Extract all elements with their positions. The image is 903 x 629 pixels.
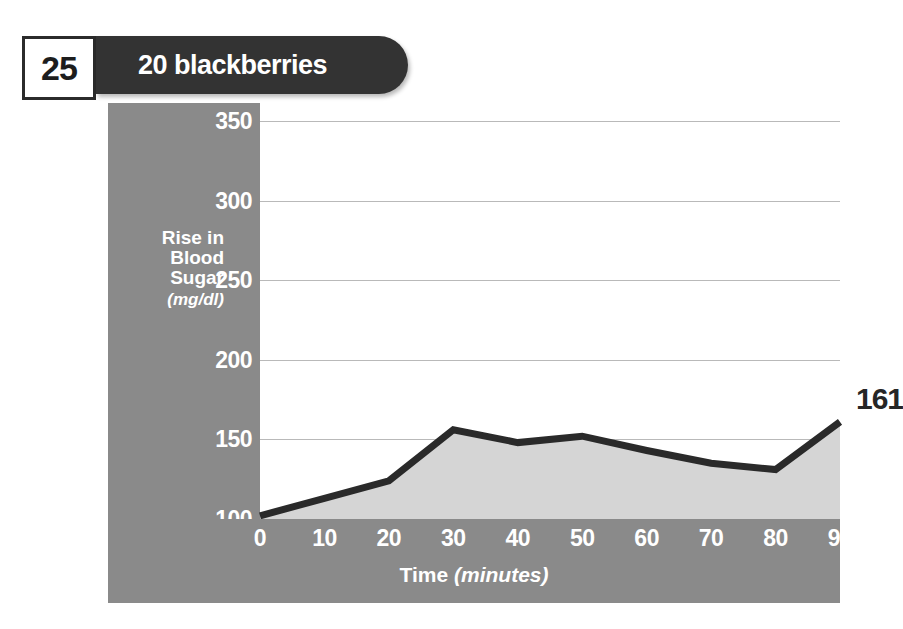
x-tick-label: 60 [634,525,659,552]
x-tick-label: 10 [312,525,337,552]
x-axis-title: Time (minutes) [108,563,840,587]
page-number: 25 [41,49,77,88]
y-tick-label: 250 [215,267,252,294]
x-axis-unit: (minutes) [454,563,549,586]
page-number-box: 25 [22,36,96,100]
y-tick-label: 150 [215,426,252,453]
chart-title-pill: 20 blackberries [96,36,408,94]
x-tick-label: 90 [828,525,853,552]
chart-area: Rise in Blood Sugar (mg/dl) 100150200250… [108,103,840,603]
x-tick-label: 20 [377,525,402,552]
end-value-annotation: 161 [856,382,903,416]
x-tick-label: 80 [763,525,788,552]
x-axis-title-text: Time [400,563,449,586]
data-series-area-line [260,103,840,519]
y-tick-label: 350 [215,108,252,135]
plot-canvas [260,103,840,519]
x-axis-band: 0102030405060708090 Time (minutes) [108,519,840,603]
y-axis-unit: (mg/dl) [112,290,224,310]
x-tick-label: 70 [699,525,724,552]
x-tick-label: 50 [570,525,595,552]
y-tick-label: 200 [215,346,252,373]
x-tick-label: 30 [441,525,466,552]
chart-title: 20 blackberries [96,50,327,81]
y-tick-label: 300 [215,187,252,214]
x-tick-label: 0 [254,525,266,552]
x-tick-label: 40 [505,525,530,552]
y-axis-title: Rise in Blood Sugar (mg/dl) [112,228,224,310]
